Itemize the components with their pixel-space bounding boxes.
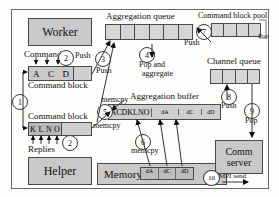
- pop-aggregate-line2: aggregate: [142, 70, 173, 78]
- agg-queue-cell: [106, 25, 121, 39]
- command-block-pool-label: Command block pool: [198, 12, 267, 20]
- cmd-top-cell-1: C: [44, 69, 59, 79]
- push-3b-label: Push: [96, 67, 112, 75]
- comm-server-line1: Comm: [225, 146, 252, 158]
- memcpy-5b-label: memcpy: [93, 122, 121, 130]
- pop-7-label: Pop: [258, 33, 269, 40]
- agg-buf-cell-3: dD: [202, 109, 220, 115]
- aggregation-queue: [105, 24, 193, 40]
- memory-cell-1: dC: [159, 168, 177, 179]
- chan-cell: [223, 70, 235, 83]
- helper-box: Helper: [28, 157, 92, 185]
- command-block-pool: [211, 23, 261, 37]
- channel-queue: [210, 69, 260, 84]
- step-marker-7: 7: [196, 24, 212, 40]
- agg-queue-cell: [121, 25, 136, 39]
- agg-queue-cell: [135, 25, 150, 39]
- step-marker-9: 9: [244, 103, 260, 119]
- cmd-top-cell-2: D: [58, 69, 73, 79]
- push-3-label: Push: [75, 52, 91, 60]
- agg-buf-cell-2: dC: [179, 109, 202, 115]
- chan-cell: [248, 70, 259, 83]
- agg-queue-cell: [164, 25, 179, 39]
- step-marker-6: 6: [135, 134, 151, 150]
- step-marker-10: 10: [203, 170, 220, 186]
- agg-buf-cell-1: dA: [152, 109, 179, 115]
- replies-label: Replies: [28, 145, 55, 154]
- step-marker-2b: 2: [62, 135, 78, 151]
- step-marker-3: 3: [95, 51, 111, 67]
- step-marker-5: 5: [97, 104, 113, 120]
- pool-cell: [212, 24, 224, 36]
- pool-cell: [237, 24, 249, 36]
- aggregation-queue-label: Aggregation queue: [106, 12, 175, 21]
- aggregation-buffer: ACDKLNO dA dC dD: [108, 104, 221, 120]
- memcpy-5a-label: memcpy: [101, 96, 129, 104]
- agg-queue-cell: [150, 25, 165, 39]
- worker-box: Worker: [28, 18, 92, 46]
- cmd-bot-cell-1: L: [37, 125, 45, 134]
- chan-cell: [211, 70, 223, 83]
- agg-queue-cell: [179, 25, 193, 39]
- cmd-bot-cell-2: N: [45, 125, 53, 134]
- aggregation-buffer-label: Aggregation buffer: [130, 92, 199, 101]
- mpi-send-label: MPI send: [219, 173, 246, 180]
- comm-server-box: Comm server: [215, 140, 263, 174]
- cmd-top-cell-0: A: [29, 69, 44, 79]
- step-marker-4: 4: [139, 47, 155, 63]
- command-block-bottom: K L N O: [28, 122, 92, 136]
- pool-cell: [224, 24, 236, 36]
- memory-cells: dA dC dD: [140, 167, 194, 180]
- cmd-bot-cell-0: K: [29, 125, 37, 134]
- command-block-bottom-label: Command block: [28, 112, 88, 121]
- cmd-bot-cell-3: O: [53, 125, 61, 134]
- channel-queue-label: Channel queue: [207, 57, 261, 66]
- step-marker-1: 1: [12, 94, 28, 110]
- memory-cell-2: dD: [176, 168, 193, 179]
- command-block-top: A C D: [28, 66, 92, 81]
- diagram-root: Worker Helper Memory Comm server Command…: [0, 0, 279, 197]
- step-marker-8: 8: [221, 89, 237, 105]
- command-block-top-label: Command block: [28, 81, 88, 90]
- comm-server-line2: server: [227, 157, 251, 169]
- step-marker-2a: 2: [58, 50, 74, 66]
- chan-cell: [236, 70, 248, 83]
- agg-buf-cell-0: ACDKLNO: [109, 108, 152, 117]
- push-7-label: Push: [184, 39, 200, 47]
- memory-cell-0: dA: [141, 168, 159, 179]
